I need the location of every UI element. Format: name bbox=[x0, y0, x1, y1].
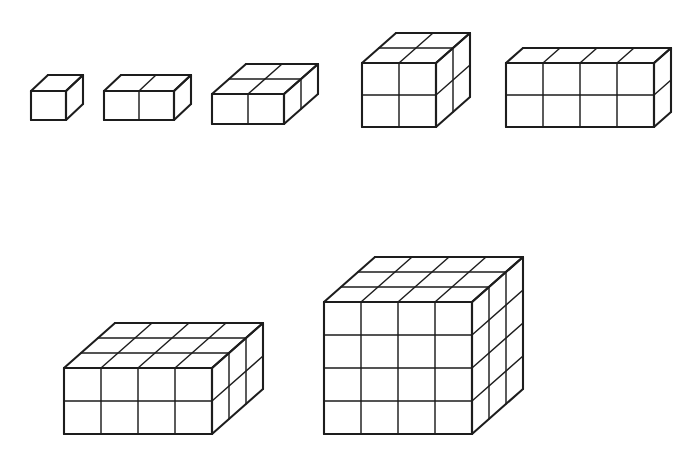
cube-stack-5 bbox=[506, 48, 671, 127]
cube-stack-2 bbox=[104, 75, 191, 120]
figure-body-fill bbox=[104, 75, 191, 120]
figure-body-fill bbox=[506, 48, 671, 127]
cube-stack-7 bbox=[324, 257, 523, 434]
cube-diagram-svg bbox=[0, 0, 697, 457]
cube-figures-canvas bbox=[0, 0, 697, 457]
